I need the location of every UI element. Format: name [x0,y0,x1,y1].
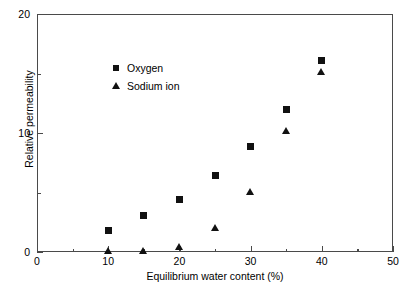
x-tick-label: 40 [302,255,342,267]
x-tick-major [322,246,323,252]
x-tick-minor [357,249,358,253]
plot-area [37,14,393,252]
x-axis-label: Equilibrium water content (%) [37,270,393,282]
y-tick-label: 0 [0,246,30,258]
y-tick-major [37,133,43,134]
data-point-sodium-ion [211,224,219,231]
x-tick-minor [215,249,216,253]
y-tick-minor [37,193,41,194]
x-tick-major [393,246,394,252]
x-tick-minor [73,249,74,253]
x-tick-label: 50 [373,255,408,267]
x-tick-major [251,246,252,252]
x-tick-label: 10 [88,255,128,267]
data-point-oxygen [212,172,219,179]
data-point-sodium-ion [282,127,290,134]
x-tick-minor [286,249,287,253]
legend-item-oxygen: Oxygen [110,60,180,75]
legend-label: Oxygen [127,62,163,74]
data-point-sodium-ion [317,68,325,75]
x-tick-label: 30 [231,255,271,267]
y-tick-minor [37,74,41,75]
chart-figure: 0102030405001020 Equilibrium water conte… [0,0,408,290]
x-tick-label: 20 [159,255,199,267]
data-point-sodium-ion [104,247,112,254]
legend-label: Sodium ion [127,80,180,92]
square-marker-icon [110,65,122,71]
data-point-oxygen [105,227,112,234]
y-axis-label: Relative permeability [23,34,35,204]
y-tick-label: 20 [0,8,30,20]
data-point-oxygen [176,196,183,203]
data-point-oxygen [140,212,147,219]
data-point-oxygen [283,106,290,113]
y-tick-major [37,252,43,253]
data-point-oxygen [247,143,254,150]
data-point-sodium-ion [246,188,254,195]
data-point-sodium-ion [139,247,147,254]
y-tick-major [37,14,43,15]
legend-item-sodium-ion: Sodium ion [110,78,180,93]
data-point-oxygen [318,57,325,64]
triangle-marker-icon [110,82,122,89]
data-point-sodium-ion [175,243,183,250]
chart-legend: OxygenSodium ion [110,60,180,96]
